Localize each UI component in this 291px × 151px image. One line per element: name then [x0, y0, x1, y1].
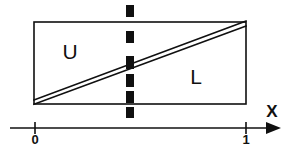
- region-label-lower: L: [190, 65, 202, 88]
- diagram-canvas: U L 0 1 X: [0, 0, 291, 151]
- x-axis-tick-label-0: 0: [31, 132, 38, 147]
- x-axis-arrowhead: [266, 122, 281, 134]
- x-axis-tick-label-1: 1: [242, 132, 249, 147]
- region-label-upper: U: [62, 40, 77, 63]
- diagonal-lower-line: [34, 26, 246, 104]
- x-axis-name-label: X: [266, 102, 278, 121]
- figure-container: U L 0 1 X: [0, 0, 291, 151]
